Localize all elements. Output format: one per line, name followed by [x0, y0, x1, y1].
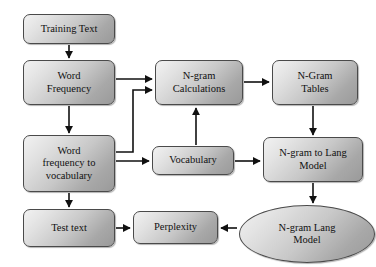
- node-word-frequency[interactable]: WordFrequency: [23, 60, 115, 105]
- node-training-text[interactable]: Training Text: [23, 14, 115, 44]
- node-word-frequency-label: WordFrequency: [44, 70, 94, 95]
- node-ngram-tables[interactable]: N-GramTables: [272, 60, 358, 105]
- node-vocabulary[interactable]: Vocabulary: [152, 146, 234, 175]
- node-vocabulary-label: Vocabulary: [166, 154, 220, 166]
- node-word-frequency-to-vocabulary-label: Wordfrequency tovocabulary: [40, 145, 99, 182]
- node-ngram-to-lang-model-label: N-gram to LangModel: [276, 147, 350, 172]
- node-ngram-calculations[interactable]: N-gramCalculations: [155, 60, 243, 105]
- node-test-text[interactable]: Test text: [23, 209, 115, 247]
- node-word-frequency-to-vocabulary[interactable]: Wordfrequency tovocabulary: [23, 135, 115, 192]
- node-ngram-tables-label: N-GramTables: [295, 70, 336, 95]
- edge-word-freq-vocab-to-ngram-calc: [116, 90, 152, 152]
- node-training-text-label: Training Text: [38, 23, 101, 35]
- node-ngram-to-lang-model[interactable]: N-gram to LangModel: [263, 137, 363, 182]
- node-perplexity-label: Perplexity: [151, 221, 200, 233]
- node-ngram-lang-model[interactable]: N-gram LangModel: [239, 205, 375, 263]
- node-ngram-calculations-label: N-gramCalculations: [170, 70, 229, 95]
- flowchart-canvas: Training Text WordFrequency Wordfrequenc…: [0, 0, 376, 267]
- node-perplexity[interactable]: Perplexity: [133, 211, 218, 244]
- node-test-text-label: Test text: [48, 222, 90, 234]
- node-ngram-lang-model-label: N-gram LangModel: [276, 222, 339, 247]
